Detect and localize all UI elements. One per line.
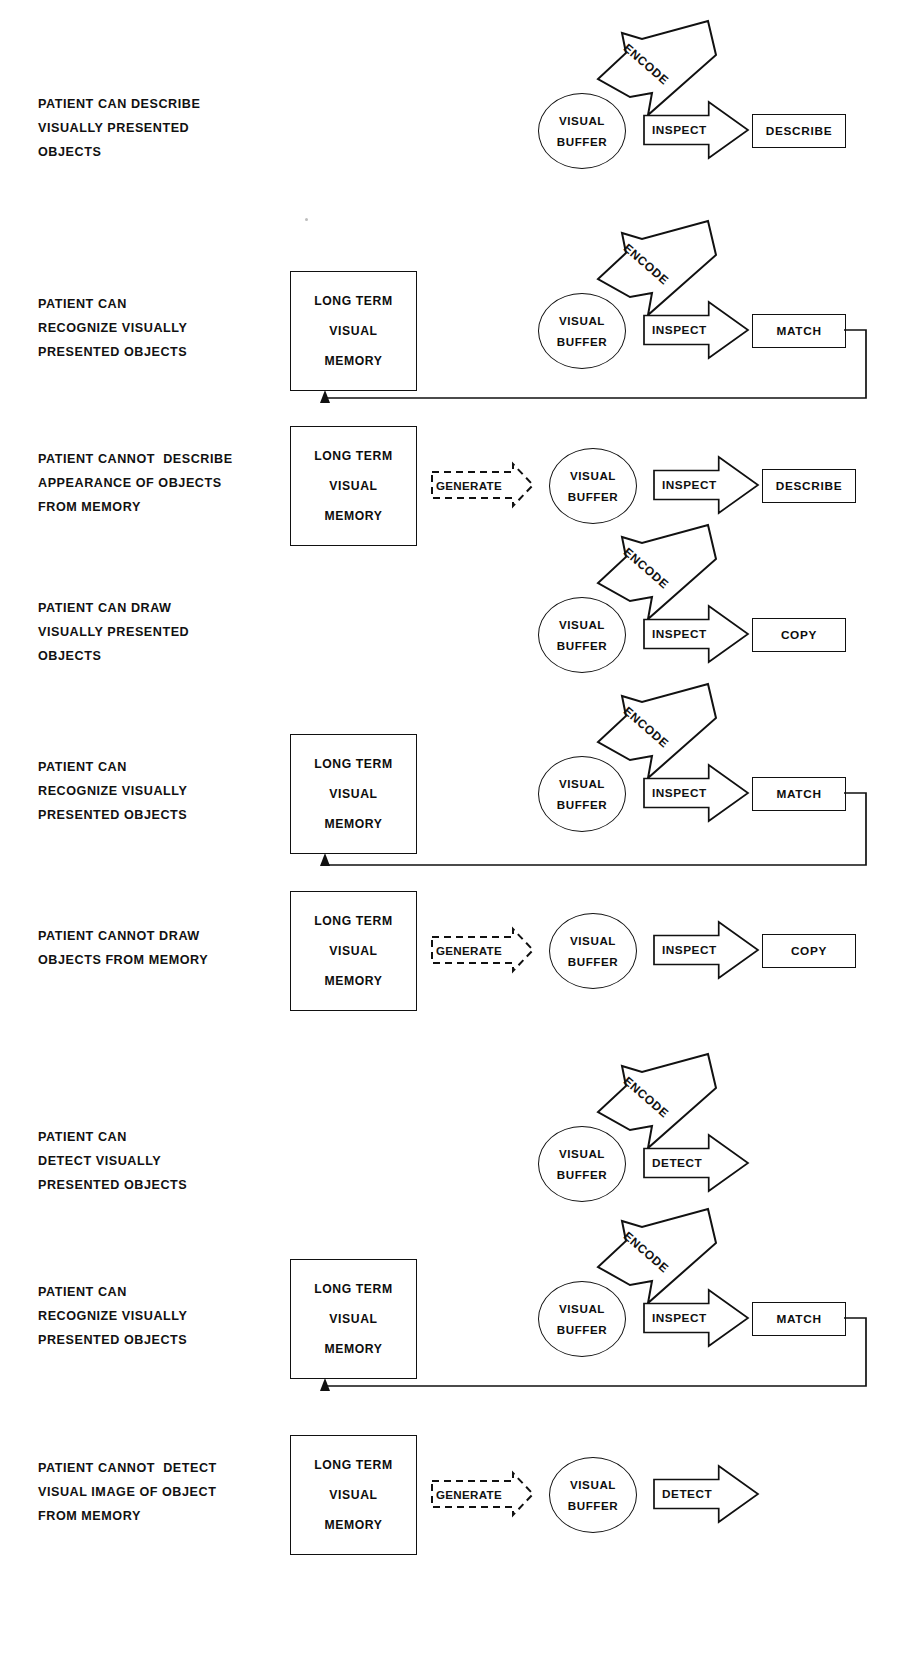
process-arrow-label: DETECT bbox=[662, 1487, 712, 1501]
ltm-line: MEMORY bbox=[325, 1510, 383, 1540]
row-description-line: PATIENT CANNOT DETECT bbox=[38, 1456, 217, 1480]
diagram-page: PATIENT CAN DESCRIBEVISUALLY PRESENTEDOB… bbox=[0, 0, 899, 1656]
generate-arrow: GENERATE bbox=[430, 1471, 535, 1517]
ltm-line: VISUAL bbox=[329, 1480, 377, 1510]
visual-buffer-line: BUFFER bbox=[568, 1495, 619, 1516]
row-description-line: VISUAL IMAGE OF OBJECT bbox=[38, 1480, 217, 1504]
long-term-visual-memory-box: LONG TERMVISUALMEMORY bbox=[290, 1435, 417, 1555]
row-description-label: PATIENT CANNOT DETECTVISUAL IMAGE OF OBJ… bbox=[38, 1456, 217, 1528]
visual-buffer-ellipse: VISUALBUFFER bbox=[549, 1457, 637, 1533]
row-description-line: FROM MEMORY bbox=[38, 1504, 217, 1528]
feedback-loop bbox=[0, 0, 899, 1394]
generate-arrow-label: GENERATE bbox=[436, 1488, 502, 1501]
process-arrow-detect: DETECT bbox=[653, 1465, 759, 1523]
ltm-line: LONG TERM bbox=[314, 1450, 393, 1480]
visual-buffer-line: VISUAL bbox=[570, 1474, 616, 1495]
